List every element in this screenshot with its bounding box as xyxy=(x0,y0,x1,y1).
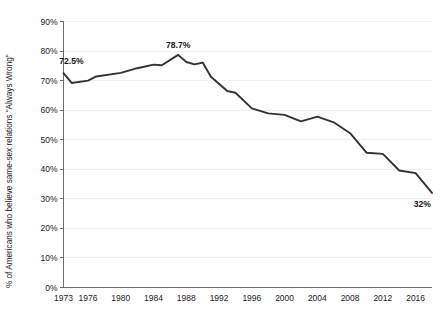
y-tick-label: 40% xyxy=(40,164,57,174)
y-tick-label: 80% xyxy=(40,46,57,56)
x-tick-label: 1973 xyxy=(54,293,73,303)
y-tick-label: 60% xyxy=(40,105,57,115)
x-tick-label: 2000 xyxy=(275,293,294,303)
y-tick-label: 90% xyxy=(40,17,57,27)
y-tick-label: 50% xyxy=(40,135,57,145)
y-tick-label: 20% xyxy=(40,223,57,233)
chart-background xyxy=(0,0,440,319)
line-chart-figure: 0%10%20%30%40%50%60%70%80%90% 1973197619… xyxy=(0,0,440,319)
x-tick-label: 2004 xyxy=(308,293,327,303)
data-label: 32% xyxy=(414,199,432,209)
x-tick-label: 1992 xyxy=(210,293,229,303)
chart-container: 0%10%20%30%40%50%60%70%80%90% 1973197619… xyxy=(0,0,440,319)
x-tick-label: 1996 xyxy=(242,293,261,303)
y-axis-title: % of Americans who believe same-sex rela… xyxy=(5,54,14,288)
x-tick-label: 1980 xyxy=(111,293,130,303)
x-tick-label: 1988 xyxy=(177,293,196,303)
y-tick-label: 0% xyxy=(45,283,58,293)
x-tick-label: 2016 xyxy=(406,293,425,303)
x-tick-label: 1976 xyxy=(79,293,98,303)
data-label: 72.5% xyxy=(59,56,84,66)
y-tick-label: 10% xyxy=(40,253,57,263)
x-tick-label: 2012 xyxy=(373,293,392,303)
data-label: 78.7% xyxy=(166,40,191,50)
y-tick-label: 70% xyxy=(40,76,57,86)
x-tick-label: 1984 xyxy=(144,293,163,303)
y-tick-label: 30% xyxy=(40,194,57,204)
x-tick-label: 2008 xyxy=(341,293,360,303)
